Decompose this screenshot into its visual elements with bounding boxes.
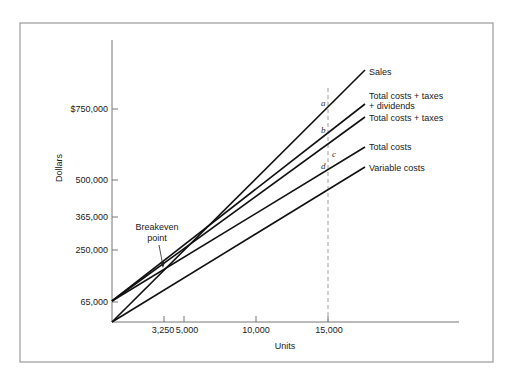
marker-d: d [321, 161, 326, 171]
marker-a: a [321, 98, 326, 108]
marker-c: c [332, 149, 336, 159]
chart-frame [20, 23, 493, 362]
breakeven-label-1: Breakeven [135, 222, 178, 232]
x-tick-10000: 10,000 [242, 325, 270, 335]
label-tctd-1: Total costs + taxes [369, 91, 444, 101]
y-tick-65000: 65,000 [80, 297, 108, 307]
label-sales: Sales [369, 67, 392, 77]
x-axis-label: Units [275, 341, 296, 351]
breakeven-chart: $750,000 500,000 365,000 250,000 65,000 … [0, 0, 512, 383]
series-sales [112, 70, 365, 322]
marker-b: b [321, 125, 326, 135]
y-ticks: $750,000 500,000 365,000 250,000 65,000 [70, 104, 118, 307]
x-ticks: 3,250 5,000 10,000 15,000 [152, 316, 343, 335]
y-tick-365000: 365,000 [75, 212, 108, 222]
series-total-costs-taxes-dividends [112, 104, 365, 301]
y-tick-500000: 500,000 [75, 175, 108, 185]
x-tick-5000: 5,000 [176, 325, 199, 335]
y-tick-750000: $750,000 [70, 104, 108, 114]
label-tc: Total costs [369, 142, 412, 152]
y-axis-label: Dollars [54, 154, 64, 183]
x-tick-3250: 3,250 [152, 325, 175, 335]
label-vc: Variable costs [369, 163, 425, 173]
label-tctd-2: + dividends [369, 101, 415, 111]
label-tct: Total costs + taxes [369, 113, 444, 123]
breakeven-label-2: point [147, 233, 167, 243]
series-total-costs-taxes [112, 117, 365, 301]
x-tick-15000: 15,000 [315, 325, 343, 335]
y-tick-250000: 250,000 [75, 245, 108, 255]
series-variable-costs [112, 167, 365, 322]
